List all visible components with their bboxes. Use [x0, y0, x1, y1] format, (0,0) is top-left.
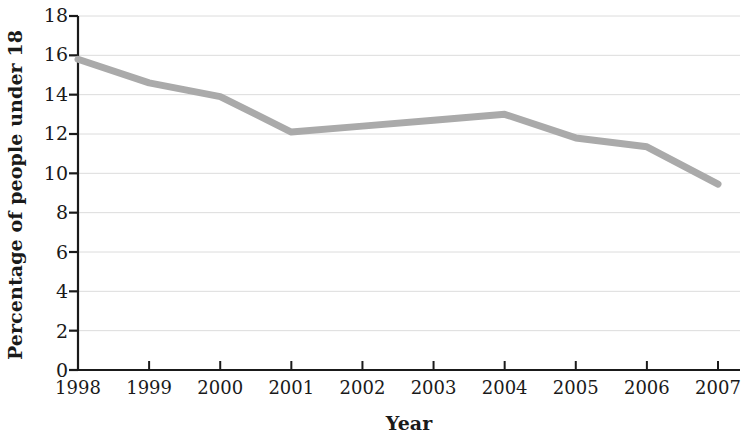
x-tick-label: 2001	[256, 378, 326, 398]
x-axis-title: Year	[78, 412, 740, 434]
x-tick-label: 2006	[612, 378, 682, 398]
x-tick-label: 2007	[683, 378, 753, 398]
x-tick-label: 1998	[43, 378, 113, 398]
x-axis-ticks	[78, 361, 718, 370]
x-tick-label: 2004	[470, 378, 540, 398]
data-series-line	[78, 59, 718, 184]
x-tick-label: 1999	[114, 378, 184, 398]
line-chart: Percentage of people under 18 18 16 14 1…	[0, 0, 754, 448]
gridlines	[78, 16, 740, 331]
x-tick-label: 2005	[541, 378, 611, 398]
x-tick-label: 2003	[399, 378, 469, 398]
x-tick-label: 2000	[185, 378, 255, 398]
x-tick-label: 2002	[327, 378, 397, 398]
y-axis-ticks	[69, 16, 78, 370]
